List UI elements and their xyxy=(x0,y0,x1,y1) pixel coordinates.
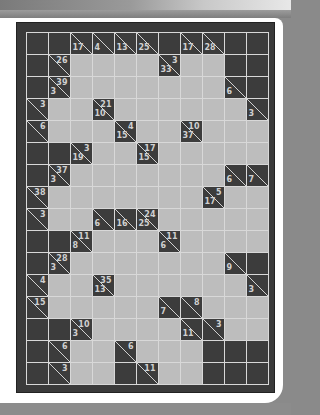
entry-cell[interactable] xyxy=(246,142,269,165)
entry-cell[interactable] xyxy=(136,54,159,77)
entry-cell[interactable] xyxy=(114,230,137,253)
entry-cell[interactable] xyxy=(114,142,137,165)
entry-cell[interactable] xyxy=(92,230,115,253)
entry-cell[interactable] xyxy=(92,296,115,319)
entry-cell[interactable] xyxy=(224,318,247,341)
entry-cell[interactable] xyxy=(136,120,159,143)
entry-cell[interactable] xyxy=(158,274,181,297)
entry-cell[interactable] xyxy=(136,318,159,341)
entry-cell[interactable] xyxy=(180,252,203,275)
entry-cell[interactable] xyxy=(48,296,71,319)
entry-cell[interactable] xyxy=(114,296,137,319)
entry-cell[interactable] xyxy=(202,76,225,99)
entry-cell[interactable] xyxy=(224,296,247,319)
entry-cell[interactable] xyxy=(114,274,137,297)
entry-cell[interactable] xyxy=(158,318,181,341)
entry-cell[interactable] xyxy=(114,98,137,121)
entry-cell[interactable] xyxy=(180,340,203,363)
entry-cell[interactable] xyxy=(136,230,159,253)
entry-cell[interactable] xyxy=(158,164,181,187)
entry-cell[interactable] xyxy=(158,186,181,209)
entry-cell[interactable] xyxy=(114,252,137,275)
entry-cell[interactable] xyxy=(158,208,181,231)
entry-cell[interactable] xyxy=(92,120,115,143)
entry-cell[interactable] xyxy=(136,98,159,121)
entry-cell[interactable] xyxy=(202,296,225,319)
entry-cell[interactable] xyxy=(136,296,159,319)
entry-cell[interactable] xyxy=(202,98,225,121)
entry-cell[interactable] xyxy=(224,274,247,297)
entry-cell[interactable] xyxy=(70,54,93,77)
entry-cell[interactable] xyxy=(136,274,159,297)
entry-cell[interactable] xyxy=(70,274,93,297)
entry-cell[interactable] xyxy=(224,120,247,143)
entry-cell[interactable] xyxy=(92,186,115,209)
entry-cell[interactable] xyxy=(48,274,71,297)
entry-cell[interactable] xyxy=(136,76,159,99)
entry-cell[interactable] xyxy=(246,230,269,253)
entry-cell[interactable] xyxy=(92,318,115,341)
entry-cell[interactable] xyxy=(180,208,203,231)
entry-cell[interactable] xyxy=(180,54,203,77)
entry-cell[interactable] xyxy=(114,318,137,341)
entry-cell[interactable] xyxy=(114,186,137,209)
entry-cell[interactable] xyxy=(70,98,93,121)
entry-cell[interactable] xyxy=(48,98,71,121)
entry-cell[interactable] xyxy=(48,120,71,143)
entry-cell[interactable] xyxy=(158,362,181,385)
entry-cell[interactable] xyxy=(92,164,115,187)
entry-cell[interactable] xyxy=(114,76,137,99)
entry-cell[interactable] xyxy=(158,252,181,275)
entry-cell[interactable] xyxy=(180,76,203,99)
entry-cell[interactable] xyxy=(224,142,247,165)
entry-cell[interactable] xyxy=(136,186,159,209)
entry-cell[interactable] xyxy=(70,76,93,99)
entry-cell[interactable] xyxy=(246,318,269,341)
entry-cell[interactable] xyxy=(246,208,269,231)
entry-cell[interactable] xyxy=(202,54,225,77)
entry-cell[interactable] xyxy=(224,208,247,231)
entry-cell[interactable] xyxy=(246,296,269,319)
entry-cell[interactable] xyxy=(202,274,225,297)
entry-cell[interactable] xyxy=(180,362,203,385)
entry-cell[interactable] xyxy=(224,230,247,253)
entry-cell[interactable] xyxy=(158,98,181,121)
entry-cell[interactable] xyxy=(136,340,159,363)
entry-cell[interactable] xyxy=(246,186,269,209)
entry-cell[interactable] xyxy=(70,208,93,231)
entry-cell[interactable] xyxy=(136,252,159,275)
entry-cell[interactable] xyxy=(70,296,93,319)
entry-cell[interactable] xyxy=(48,208,71,231)
entry-cell[interactable] xyxy=(92,54,115,77)
entry-cell[interactable] xyxy=(70,164,93,187)
entry-cell[interactable] xyxy=(202,120,225,143)
entry-cell[interactable] xyxy=(70,120,93,143)
entry-cell[interactable] xyxy=(70,186,93,209)
entry-cell[interactable] xyxy=(136,164,159,187)
entry-cell[interactable] xyxy=(70,362,93,385)
entry-cell[interactable] xyxy=(180,230,203,253)
entry-cell[interactable] xyxy=(202,252,225,275)
entry-cell[interactable] xyxy=(224,98,247,121)
entry-cell[interactable] xyxy=(70,252,93,275)
entry-cell[interactable] xyxy=(224,186,247,209)
entry-cell[interactable] xyxy=(158,340,181,363)
entry-cell[interactable] xyxy=(92,252,115,275)
entry-cell[interactable] xyxy=(180,186,203,209)
entry-cell[interactable] xyxy=(92,340,115,363)
entry-cell[interactable] xyxy=(246,120,269,143)
entry-cell[interactable] xyxy=(202,164,225,187)
entry-cell[interactable] xyxy=(202,208,225,231)
entry-cell[interactable] xyxy=(180,164,203,187)
entry-cell[interactable] xyxy=(180,142,203,165)
entry-cell[interactable] xyxy=(114,164,137,187)
entry-cell[interactable] xyxy=(158,142,181,165)
entry-cell[interactable] xyxy=(180,274,203,297)
entry-cell[interactable] xyxy=(180,98,203,121)
entry-cell[interactable] xyxy=(48,186,71,209)
entry-cell[interactable] xyxy=(202,142,225,165)
entry-cell[interactable] xyxy=(202,230,225,253)
entry-cell[interactable] xyxy=(158,76,181,99)
entry-cell[interactable] xyxy=(70,340,93,363)
entry-cell[interactable] xyxy=(114,54,137,77)
